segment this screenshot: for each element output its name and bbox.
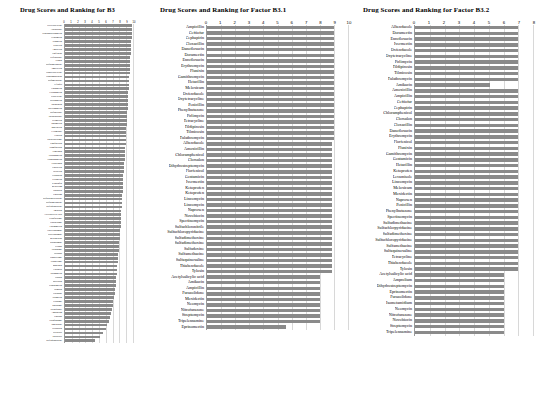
bar: [415, 250, 518, 254]
bar-series-b3: [65, 24, 133, 343]
bars-container-b3: [64, 24, 134, 343]
bar: [415, 78, 518, 82]
bar: [207, 137, 334, 141]
bar: [65, 276, 116, 279]
bar: [65, 210, 121, 213]
bar: [415, 147, 518, 151]
y-axis-labels-b32: AlbendazoleDoramectinEnrofloxacinIvermec…: [357, 25, 414, 336]
bar: [65, 123, 127, 126]
chart-panel-b31: Drug Scores and Ranking for Factor B3.1 …: [148, 0, 353, 330]
gridline: [533, 25, 534, 336]
bar: [207, 203, 332, 207]
bar: [65, 324, 107, 327]
y-category-label: Sulfaquinoxaline: [46, 339, 64, 343]
bar: [415, 325, 504, 329]
bar: [207, 120, 334, 124]
bar: [415, 112, 518, 116]
bar: [207, 248, 332, 252]
bar: [65, 147, 125, 150]
bar: [207, 187, 332, 191]
x-axis-ticks-b32: 012345678: [414, 16, 534, 25]
bar: [65, 76, 129, 79]
bar: [207, 242, 332, 246]
bar: [207, 237, 332, 241]
bar: [207, 98, 334, 102]
bar: [415, 290, 504, 294]
bar: [415, 216, 518, 220]
bar: [65, 288, 115, 291]
bar: [207, 76, 334, 80]
bar: [415, 262, 518, 266]
plot-area-b31: AmpicillinCeftiofurCephapirinCloxacillin…: [154, 25, 353, 330]
bar: [65, 253, 118, 256]
bar: [65, 225, 121, 228]
bar: [207, 220, 332, 224]
bar: [207, 153, 332, 157]
bar: [65, 174, 123, 177]
bar: [415, 256, 518, 260]
bar: [415, 43, 518, 47]
bar: [65, 28, 132, 31]
bar: [207, 164, 332, 168]
bar: [65, 217, 121, 220]
x-axis-b3: 012345678910: [2, 15, 148, 24]
bar: [207, 264, 332, 268]
bar: [65, 257, 118, 260]
bar: [207, 92, 334, 96]
bar: [65, 320, 109, 323]
bar: [65, 158, 125, 161]
bar: [65, 336, 100, 339]
bar: [207, 314, 320, 318]
bar: [415, 273, 504, 277]
bar: [207, 170, 332, 174]
bar: [65, 296, 114, 299]
bar: [415, 158, 518, 162]
bar: [65, 80, 129, 83]
bar: [65, 249, 119, 252]
bar: [207, 225, 332, 229]
bar: [415, 285, 504, 289]
bar: [207, 81, 334, 85]
bar: [415, 227, 518, 231]
bar: [65, 162, 124, 165]
bar: [207, 65, 334, 69]
bar: [65, 245, 119, 248]
bar: [65, 103, 128, 106]
bar: [207, 103, 334, 107]
bar: [415, 239, 518, 243]
bar: [415, 296, 504, 300]
bar: [65, 300, 113, 303]
chart-title-b3: Drug Scores and Ranking for B3: [20, 6, 148, 13]
bar: [207, 181, 332, 185]
bar: [415, 204, 518, 208]
bar: [415, 124, 518, 128]
bar: [207, 214, 332, 218]
bar: [65, 40, 131, 43]
bar: [415, 135, 518, 139]
bar: [65, 56, 130, 59]
chart-panel-b3: Drug Scores and Ranking for B3 012345678…: [0, 0, 148, 343]
bar: [65, 229, 120, 232]
bar: [65, 143, 126, 146]
bar: [415, 319, 504, 323]
bar: [207, 292, 320, 296]
bar: [65, 107, 128, 110]
bar: [65, 273, 117, 276]
bar: [207, 109, 334, 113]
bar: [207, 31, 334, 35]
bar: [207, 259, 332, 263]
bar: [415, 331, 504, 335]
bar-row: [207, 325, 348, 331]
bar-row: [65, 339, 133, 343]
bar-series-b31: [207, 25, 348, 330]
bar: [65, 24, 132, 27]
gridline: [348, 25, 349, 330]
bar: [65, 182, 123, 185]
bar: [207, 287, 320, 291]
bar: [207, 253, 332, 257]
bar: [65, 154, 125, 157]
bar: [65, 221, 121, 224]
bar: [65, 265, 117, 268]
bar: [65, 72, 130, 75]
x-axis-ticks-b3: 012345678910: [64, 15, 134, 24]
